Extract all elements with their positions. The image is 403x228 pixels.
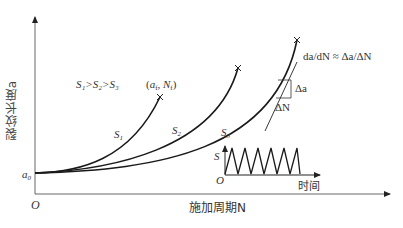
tangent-line [265, 62, 297, 131]
curve-label-s1: S1 [114, 129, 123, 142]
curve-label-s2: S2 [172, 125, 181, 138]
delta-n-label: ΔN [275, 102, 290, 113]
curve-label-s3: S3 [221, 127, 230, 140]
curve-s2 [35, 68, 238, 173]
crack-growth-diagram [0, 0, 403, 228]
y-axis-label: 裂纹长度a [3, 80, 20, 140]
failure-point-label: (af, Nf) [146, 79, 176, 92]
origin-label: O [31, 199, 40, 211]
a0-label: a0 [22, 169, 31, 182]
inset-sawtooth [225, 148, 300, 174]
inset-time-label: 时间 [298, 181, 320, 192]
curve-s1 [35, 97, 160, 173]
inset-s-label: S [214, 151, 220, 162]
inset-origin-label: O [216, 175, 224, 186]
delta-a-label: Δa [295, 83, 307, 94]
curve-s3 [35, 40, 297, 173]
stress-relation-label: S₁>S₂>S₃ [76, 79, 119, 90]
slope-formula: da/dN ≈ Δa/ΔN [303, 51, 371, 62]
x-axis-label: 施加周期N [189, 202, 246, 214]
failure-mark-s1 [157, 94, 163, 100]
